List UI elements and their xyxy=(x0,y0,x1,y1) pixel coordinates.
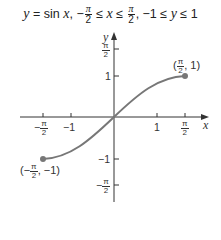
x-tick-pi-over-2: π2 xyxy=(181,120,189,137)
x-tick-neg-pi-over-2: −π2 xyxy=(34,120,48,137)
rest: , 1) xyxy=(184,59,200,71)
endpoint-lower xyxy=(40,156,46,162)
den: 2 xyxy=(102,187,110,195)
y-tick-neg-pi-over-2: −π2 xyxy=(96,178,110,195)
y-tick-1: 1 xyxy=(105,71,111,81)
y-axis-arrow-icon xyxy=(111,32,117,40)
paren: (− xyxy=(20,164,30,176)
lower-point-label: (−π2, −1) xyxy=(20,163,60,180)
y-tick-pi-over-2: π2 xyxy=(102,42,110,59)
x-tick-1: 1 xyxy=(154,122,160,132)
upper-point-label: (π2, 1) xyxy=(173,58,200,75)
rest: , −1) xyxy=(38,164,60,176)
den: 2 xyxy=(30,172,38,180)
x-axis-label: x xyxy=(203,120,208,130)
den: 2 xyxy=(181,129,189,137)
x-tick-neg-1: −1 xyxy=(63,122,75,132)
den: 2 xyxy=(102,51,110,59)
den: 2 xyxy=(40,129,48,137)
y-tick-neg-1: −1 xyxy=(98,154,110,164)
